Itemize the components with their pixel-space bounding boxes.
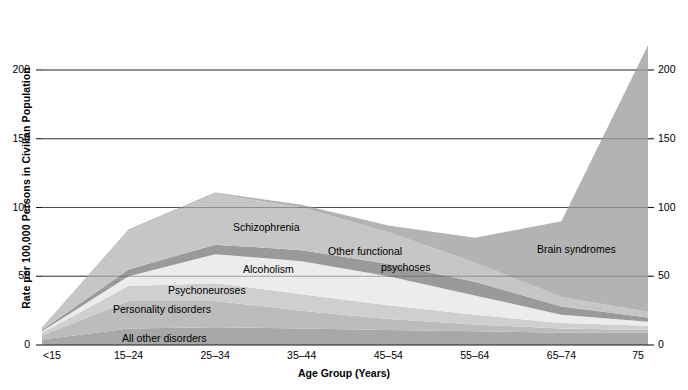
y-axis-title: Rate per 100,000 Persons in Civilian Pop… bbox=[20, 28, 32, 348]
y-tick-label-right: 100 bbox=[658, 201, 688, 213]
y-tick-label-left: 100 bbox=[0, 201, 30, 213]
y-tick-label-right: 200 bbox=[658, 63, 688, 75]
y-tick-label-left: 200 bbox=[0, 63, 30, 75]
y-tick-label-left: 50 bbox=[0, 269, 30, 281]
x-tick-label: 15–24 bbox=[99, 349, 159, 361]
y-tick-label-left: 150 bbox=[0, 132, 30, 144]
x-tick-label: 45–54 bbox=[358, 349, 418, 361]
x-tick-label: <15 bbox=[22, 349, 82, 361]
x-tick-label: 75 bbox=[608, 349, 668, 361]
y-tick-label-right: 50 bbox=[658, 269, 688, 281]
x-tick-label: 25–34 bbox=[185, 349, 245, 361]
y-tick-label-right: 150 bbox=[658, 132, 688, 144]
plot-area bbox=[0, 0, 688, 390]
x-tick-label: 65–74 bbox=[531, 349, 591, 361]
x-tick-label: 35–44 bbox=[272, 349, 332, 361]
x-tick-label: 55–64 bbox=[445, 349, 505, 361]
x-axis-title: Age Group (Years) bbox=[0, 367, 688, 379]
area-chart: Rate per 100,000 Persons in Civilian Pop… bbox=[0, 0, 688, 390]
